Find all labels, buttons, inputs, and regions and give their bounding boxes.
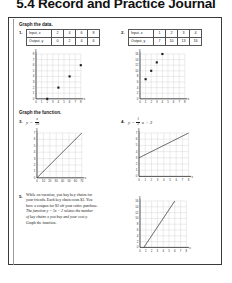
y-tick-label: 7 — [33, 58, 35, 62]
x-tick-label: 5 — [168, 249, 170, 253]
x-tick-label: 0 — [36, 179, 38, 183]
x-tick-label: 2 — [151, 249, 153, 253]
y-tick-label: 3 — [33, 80, 35, 84]
x-tick-label: 7 — [180, 249, 182, 253]
function-line — [37, 133, 82, 178]
x-tick-label: 4 — [163, 178, 165, 182]
x-tick-label: 5 — [63, 100, 65, 104]
x-tick-label: 0 — [138, 178, 140, 182]
data-point — [57, 87, 59, 89]
y-tick-label: 1 — [33, 91, 35, 95]
x-tick-label: 2 — [46, 100, 48, 104]
equation-lhs: y = — [26, 120, 33, 125]
y-tick-label: 5 — [136, 143, 138, 147]
y-tick-label: 16 — [135, 199, 139, 203]
x-tick-label: 0 — [35, 100, 37, 104]
section-heading-graph-the-function: Graph the function. — [19, 110, 61, 115]
y-tick-label: 5 — [33, 69, 35, 73]
equation-problem-4: y = 1 2 x + 3 — [128, 118, 152, 127]
x-tick-label: 10 — [42, 179, 46, 183]
y-tick-label: 5 — [34, 144, 36, 148]
table-cell: 4 — [64, 30, 76, 38]
y-tick-label: 12 — [135, 211, 139, 215]
table-cell: 4 — [76, 38, 88, 46]
word-problem-line: of key chains x you buy and your cost y. — [26, 215, 118, 220]
data-point — [69, 75, 71, 77]
table-cell: 6 — [76, 30, 88, 38]
x-tick-label: 7 — [74, 100, 76, 104]
x-tick-label: 5 — [169, 178, 171, 182]
table-cell: 7 — [154, 38, 166, 46]
data-table-2: Input, x 1 2 3 4 Output, y 7 10 13 16 — [128, 29, 202, 46]
y-tick-label: 1 — [34, 169, 36, 173]
x-tick-label: 7 — [178, 100, 180, 104]
problem-number-1: 1. — [19, 30, 23, 35]
x-tick-label: 30 — [55, 179, 59, 183]
left-margin-rule — [13, 19, 14, 265]
table-cell: 0 — [52, 38, 64, 46]
x-tick-label: 8 — [188, 178, 190, 182]
y-tick-label: 2 — [137, 91, 139, 95]
fraction-denominator: 2 — [136, 123, 140, 127]
x-tick-label: 1 — [41, 100, 43, 104]
x-tick-label: 20 — [48, 179, 52, 183]
x-tick-label: 8 — [186, 249, 188, 253]
data-point — [156, 61, 158, 63]
word-problem-5-text: While on vacation, you buy key chains fo… — [26, 193, 118, 227]
graph-canvas: 01020304050607001234567xy — [27, 128, 87, 185]
x-tick-label: 2 — [151, 178, 153, 182]
y-tick-label: 10 — [135, 216, 139, 220]
y-tick-label: 12 — [135, 63, 139, 67]
table-cell: 1 — [154, 30, 166, 38]
equation-rhs: x + 3 — [142, 120, 153, 125]
graph-canvas: 012345678012345678xy — [27, 49, 86, 106]
y-axis-label: y — [138, 128, 140, 131]
graph-problem-4: 01234567801234567xy — [129, 128, 194, 183]
x-tick-label: 2 — [150, 100, 152, 104]
x-tick-label: 1 — [144, 178, 146, 182]
y-tick-label: 2 — [136, 162, 138, 166]
y-tick-label: 3 — [34, 157, 36, 161]
data-point — [46, 98, 48, 100]
y-tick-label: 3 — [136, 156, 138, 160]
data-point — [150, 70, 152, 72]
x-tick-label: 1 — [145, 249, 147, 253]
problem-number-3: 3. — [19, 119, 23, 124]
x-axis-label: x — [189, 246, 191, 250]
word-problem-line: Graph the function. — [26, 221, 118, 226]
x-tick-label: 8 — [184, 100, 186, 104]
y-tick-label: 7 — [136, 131, 138, 135]
x-tick-label: 0 — [139, 100, 141, 104]
x-tick-label: 3 — [157, 178, 159, 182]
y-tick-label: 6 — [137, 228, 139, 232]
y-tick-label: 8 — [137, 74, 139, 78]
table-cell: 2 — [166, 30, 178, 38]
x-axis-label: x — [188, 97, 190, 101]
table-row-label: Input, x — [27, 30, 52, 38]
table-row: Input, x 2 4 6 8 — [27, 30, 100, 38]
graph-canvas: 0123456780246810121416xy — [129, 196, 191, 254]
problem-number-5: 5. — [19, 194, 23, 199]
table-cell: 10 — [166, 38, 178, 46]
x-tick-label: 4 — [162, 100, 164, 104]
y-tick-label: 2 — [34, 163, 36, 167]
table-cell: 8 — [88, 30, 100, 38]
y-axis-label: y — [139, 49, 141, 52]
x-tick-label: 7 — [182, 178, 184, 182]
y-axis-label: y — [35, 49, 37, 52]
table-row: Output, y 0 2 4 6 — [27, 38, 100, 46]
x-tick-label: 6 — [175, 178, 177, 182]
y-tick-label: 8 — [33, 52, 35, 56]
table-cell: 16 — [190, 38, 202, 46]
table-cell: 4 — [190, 30, 202, 38]
table-row-label: Output, y — [129, 38, 154, 46]
x-tick-label: 6 — [174, 249, 176, 253]
table-cell: 13 — [178, 38, 190, 46]
x-tick-label: 4 — [58, 100, 60, 104]
graph-canvas: 01234567801234567xy — [129, 128, 194, 183]
graph-problem-3: 01020304050607001234567xy — [27, 128, 87, 185]
y-tick-label: 2 — [33, 86, 35, 90]
x-tick-label: 8 — [80, 100, 82, 104]
y-tick-label: 8 — [137, 222, 139, 226]
x-axis-label: x — [84, 97, 86, 101]
